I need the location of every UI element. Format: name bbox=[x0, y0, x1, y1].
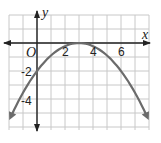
y-tick-label-neg2: -2 bbox=[21, 66, 32, 78]
y-axis-down-arrow-icon bbox=[34, 124, 40, 132]
y-axis-label: y bbox=[42, 6, 48, 20]
x-tick-label-4: 4 bbox=[90, 46, 97, 58]
origin-label: O bbox=[26, 46, 36, 60]
y-axis-up-arrow-icon bbox=[34, 10, 40, 18]
x-tick-label-6: 6 bbox=[118, 46, 125, 58]
x-axis-label: x bbox=[142, 28, 148, 42]
x-axis-left-arrow-icon bbox=[3, 40, 11, 46]
y-tick-label-neg4: -4 bbox=[21, 95, 32, 107]
x-tick-label-2: 2 bbox=[62, 46, 69, 58]
